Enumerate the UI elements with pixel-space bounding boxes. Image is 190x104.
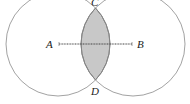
label-c: C — [91, 0, 99, 8]
label-b: B — [137, 38, 144, 50]
diagram-canvas: A B C D — [0, 0, 190, 104]
label-d: D — [90, 85, 99, 97]
label-a: A — [45, 38, 53, 50]
